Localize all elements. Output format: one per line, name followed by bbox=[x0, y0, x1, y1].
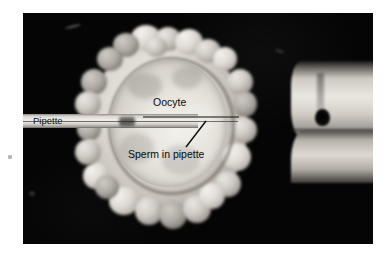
cumulus-lump bbox=[97, 47, 123, 71]
cumulus-lump bbox=[199, 183, 225, 209]
field-speck bbox=[29, 191, 35, 196]
micrograph-plate: Pipette Oocyte Sperm in pipette bbox=[23, 13, 373, 244]
injection-pipette-tip-line bbox=[143, 116, 239, 118]
cytoplasm-mottle bbox=[172, 67, 202, 89]
figure-root: Pipette Oocyte Sperm in pipette bbox=[0, 0, 388, 256]
cumulus-lump bbox=[213, 47, 237, 71]
holding-pipette-lower bbox=[291, 131, 373, 183]
holding-pipette-aperture bbox=[315, 109, 330, 126]
field-speck bbox=[275, 48, 285, 55]
label-pipette: Pipette bbox=[33, 116, 63, 126]
cumulus-lump bbox=[95, 175, 119, 199]
holding-pipette-upper bbox=[291, 61, 373, 139]
label-oocyte: Oocyte bbox=[153, 97, 186, 108]
holding-pipette-seam bbox=[291, 129, 373, 131]
cumulus-lump bbox=[145, 37, 167, 57]
micrograph-dark-field: Pipette Oocyte Sperm in pipette bbox=[23, 13, 373, 244]
injection-pipette-tip bbox=[119, 117, 135, 126]
cumulus-lump bbox=[233, 91, 257, 117]
label-sperm-in-pipette: Sperm in pipette bbox=[128, 149, 204, 160]
margin-speck bbox=[8, 155, 12, 159]
holding-pipette-neck bbox=[317, 73, 324, 113]
cumulus-lump bbox=[75, 139, 101, 165]
